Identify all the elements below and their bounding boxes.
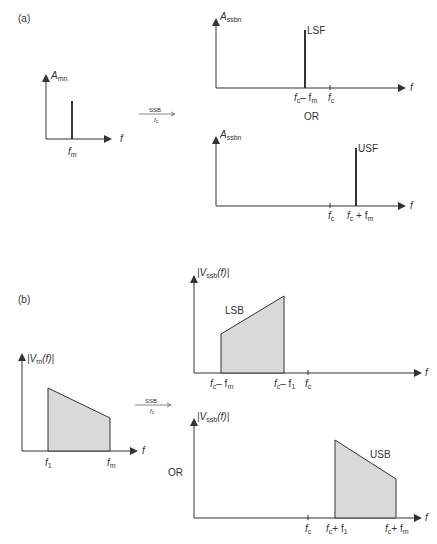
panel-b-input-plot: |Vm(f)| f f1 fm <box>22 353 146 469</box>
svg-text:|Vm(f)|: |Vm(f)| <box>27 353 54 365</box>
svg-text:fc: fc <box>305 378 312 390</box>
svg-text:f: f <box>425 512 429 523</box>
panel-a-label: (a) <box>18 13 30 24</box>
a-input-ylabel: Amn <box>50 70 68 82</box>
svg-text:Assbn: Assbn <box>219 11 242 23</box>
a-input-xlabel: f <box>120 133 124 144</box>
svg-text:f: f <box>410 200 414 211</box>
svg-text:fc+ f1: fc+ f1 <box>326 523 348 535</box>
svg-text:fc: fc <box>328 210 335 222</box>
svg-text:f1: f1 <box>45 457 52 469</box>
panel-a-top-plot: Assbn LSF f fc– fm fc <box>216 11 414 104</box>
usf-label: USF <box>358 143 378 154</box>
svg-text:Assbn: Assbn <box>219 129 242 141</box>
svg-text:|Vssb(f)|: |Vssb(f)| <box>197 411 229 423</box>
lsb-label: LSB <box>225 305 244 316</box>
svg-text:f: f <box>142 445 146 456</box>
lsf-label: LSF <box>307 25 325 36</box>
ssb-diagram: (a) Amn f fm SSB fc Assbn LSF f fc– fm f… <box>0 0 437 544</box>
usb-label: USB <box>370 449 391 460</box>
svg-text:f: f <box>410 82 414 93</box>
svg-text:SSB: SSB <box>149 107 161 113</box>
a-input-tick: fm <box>68 146 77 158</box>
svg-text:fc: fc <box>154 117 159 124</box>
svg-text:fc– fm: fc– fm <box>294 92 317 104</box>
or-label-a: OR <box>304 111 319 122</box>
svg-text:f: f <box>425 367 429 378</box>
panel-a-bottom-plot: Assbn USF f fc fc + fm <box>216 129 414 222</box>
svg-text:fc– fm: fc– fm <box>210 378 233 390</box>
svg-text:SSB: SSB <box>145 398 157 404</box>
svg-text:fc + fm: fc + fm <box>347 210 373 222</box>
panel-a-input-plot: Amn f fm <box>46 70 124 158</box>
panel-b-label: (b) <box>18 294 30 305</box>
svg-text:fc+ fm: fc+ fm <box>385 523 409 535</box>
svg-text:fc: fc <box>305 523 312 535</box>
panel-b-bottom-plot: |Vssb(f)| USB f fc fc+ f1 fc+ fm <box>194 411 429 535</box>
svg-text:fm: fm <box>107 457 116 469</box>
or-label-b: OR <box>168 467 183 478</box>
svg-text:|Vssb(f)|: |Vssb(f)| <box>197 267 229 279</box>
svg-text:fc– f1: fc– f1 <box>274 378 295 390</box>
panel-a-operator: SSB fc <box>139 107 175 124</box>
panel-b-top-plot: |Vssb(f)| LSB f fc– fm fc– f1 fc <box>194 267 429 390</box>
svg-text:fc: fc <box>328 92 335 104</box>
svg-text:fc: fc <box>150 408 155 415</box>
panel-b-operator: SSB fc <box>135 398 171 415</box>
